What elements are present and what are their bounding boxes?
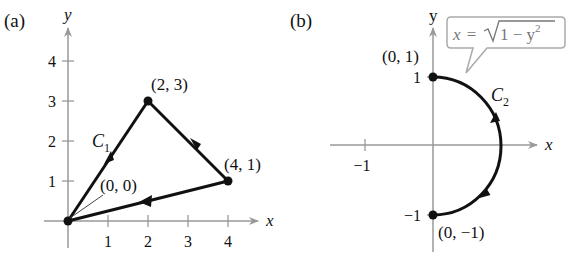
y-tick: 2 bbox=[48, 133, 56, 150]
x-axis-label: x bbox=[265, 211, 274, 230]
x-tick: 2 bbox=[144, 233, 152, 250]
y-tick: 4 bbox=[48, 53, 56, 70]
panel-b: (b) x y −1 1 −1 (0, 1) (0, −1) C2 bbox=[290, 6, 565, 252]
panel-b-label: (b) bbox=[290, 10, 312, 32]
svg-text:x =: x = bbox=[452, 25, 476, 44]
point-4-1 bbox=[224, 177, 233, 186]
x-tick: 3 bbox=[184, 233, 192, 250]
point-label: (4, 1) bbox=[224, 155, 261, 174]
panel-a-label: (a) bbox=[4, 10, 25, 32]
curve-label-c2: C2 bbox=[491, 85, 509, 109]
point-2-3 bbox=[144, 97, 153, 106]
y-axis-label: y bbox=[429, 6, 438, 25]
y-tick: 1 bbox=[413, 69, 421, 86]
point-label: (0, 1) bbox=[382, 47, 419, 66]
direction-arrow-icon bbox=[139, 195, 152, 207]
point-origin bbox=[64, 217, 73, 226]
x-tick: 1 bbox=[104, 233, 112, 250]
panel-a: (a) x y 1 2 3 4 1 2 3 4 bbox=[4, 5, 274, 250]
x-axis-label: x bbox=[544, 135, 553, 154]
point-0-1 bbox=[429, 73, 438, 82]
y-tick: 1 bbox=[48, 173, 56, 190]
curve-label-c1: C1 bbox=[92, 131, 110, 155]
x-tick: −1 bbox=[353, 157, 370, 174]
direction-arrow-icon bbox=[490, 112, 500, 123]
point-label: (0, 0) bbox=[100, 176, 137, 195]
y-axis-label: y bbox=[62, 5, 72, 24]
point-label: (2, 3) bbox=[151, 75, 188, 94]
point-label: (0, −1) bbox=[438, 223, 484, 242]
x-tick: 4 bbox=[224, 233, 232, 250]
figure: (a) x y 1 2 3 4 1 2 3 4 bbox=[0, 0, 570, 257]
y-tick: 3 bbox=[48, 93, 56, 110]
y-tick: −1 bbox=[404, 207, 421, 224]
svg-text:1 − y2: 1 − y2 bbox=[500, 22, 541, 44]
equation-callout: x = 1 − y2 bbox=[447, 17, 565, 73]
point-0-neg1 bbox=[429, 211, 438, 220]
